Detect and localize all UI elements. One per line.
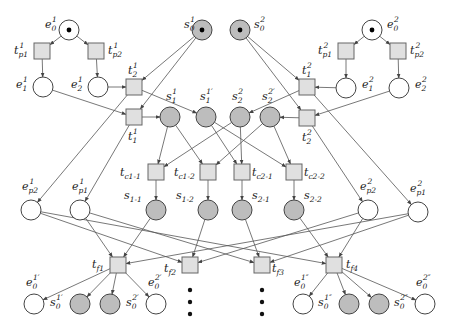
place-s2-1 bbox=[232, 200, 252, 220]
transition-t1_1 bbox=[126, 109, 142, 125]
label-s1_1p: s11′ bbox=[200, 87, 213, 105]
label-e0_2: e02 bbox=[387, 15, 399, 33]
label-t2_1: t21 bbox=[128, 61, 138, 79]
label-t1_1: t11 bbox=[128, 127, 138, 145]
label-tp1_1: tp11 bbox=[14, 41, 28, 59]
label-tf4: tf4 bbox=[346, 258, 358, 273]
transition-tf1 bbox=[110, 257, 126, 273]
place-e0_1p bbox=[24, 294, 44, 314]
place-s1_1 bbox=[160, 107, 180, 127]
arc-e0_2-to-tp2_2 bbox=[380, 36, 390, 44]
arc-t1_1-to-ep1_1 bbox=[85, 125, 129, 201]
label-tc2-2: tc2-2 bbox=[304, 166, 325, 181]
arc-tp2_1-to-e2_1 bbox=[96, 59, 97, 77]
label-e2_1: e21 bbox=[71, 75, 83, 93]
label-tf1: tf1 bbox=[92, 258, 104, 273]
place-s0_2p bbox=[100, 294, 120, 314]
transition-t2_1 bbox=[126, 79, 142, 95]
place-s0_1pp bbox=[339, 294, 359, 314]
place-e0_1 bbox=[59, 20, 79, 40]
ellipsis-dot-icon bbox=[260, 288, 264, 292]
ellipsis-dot-icon bbox=[260, 312, 264, 316]
label-tp2_2: tp22 bbox=[410, 41, 424, 59]
label-ep1_2: ep12 bbox=[410, 179, 426, 197]
arc-e0_1-to-tp1_1 bbox=[50, 36, 61, 45]
ellipsis-dot-icon bbox=[260, 300, 264, 304]
token-icon bbox=[238, 28, 243, 33]
label-tc1-2: tc1-2 bbox=[174, 166, 195, 181]
arc-s1_1-to-tc1-1 bbox=[158, 127, 167, 164]
label-s1-1: s1-1 bbox=[124, 189, 142, 204]
arc-e1_2-to-t1_2 bbox=[315, 87, 336, 88]
place-s2_2p bbox=[260, 107, 280, 127]
place-e1_1 bbox=[33, 77, 53, 97]
place-e0_1pp bbox=[293, 294, 313, 314]
place-e0_2p bbox=[146, 294, 166, 314]
place-ep2_2 bbox=[358, 200, 378, 220]
label-s0_1p: s01′ bbox=[50, 293, 63, 311]
label-tp2_1: tp21 bbox=[108, 41, 122, 59]
petri-net-diagram: s01s02e01e11e21e02e12e22s11s11′s22s22′s1… bbox=[0, 0, 454, 334]
arc-s2_2p-to-tc1-2 bbox=[216, 124, 263, 165]
arc-tf4-to-s0_1pp bbox=[337, 273, 345, 295]
place-e0_2pp bbox=[415, 294, 435, 314]
transition-tf3 bbox=[254, 257, 270, 273]
arc-s0_2-to-t2_2 bbox=[246, 38, 301, 110]
label-tp1_2: tp12 bbox=[318, 41, 332, 59]
label-e0_1pp: e01″ bbox=[294, 273, 309, 291]
token-icon bbox=[67, 28, 72, 33]
place-s2-2 bbox=[284, 200, 304, 220]
arc-tf1-to-s0_1p bbox=[87, 273, 110, 297]
label-t1_2: t12 bbox=[302, 61, 312, 79]
place-s0_2 bbox=[230, 20, 250, 40]
label-tf2: tf2 bbox=[164, 262, 176, 277]
place-e2_1 bbox=[88, 77, 108, 97]
token-icon bbox=[370, 28, 375, 33]
label-e0_1p: e01′ bbox=[26, 273, 40, 291]
transition-tc2-1 bbox=[234, 164, 250, 180]
transition-tp1_2 bbox=[338, 43, 354, 59]
label-e0_2p: e02′ bbox=[148, 273, 162, 291]
label-ep2_2: ep22 bbox=[360, 177, 376, 195]
place-ep2_1 bbox=[21, 200, 41, 220]
transition-tf2 bbox=[182, 257, 198, 273]
place-s0_1 bbox=[192, 20, 212, 40]
transition-tf4 bbox=[326, 257, 342, 273]
label-s2-1: s2-1 bbox=[252, 189, 270, 204]
arc-s1-2-to-tf2 bbox=[193, 220, 205, 257]
arc-tf4-to-s0_2pp bbox=[342, 272, 371, 298]
transition-tc1-2 bbox=[200, 164, 216, 180]
place-ep1_2 bbox=[408, 202, 428, 222]
label-ep2_1: ep21 bbox=[22, 177, 38, 195]
label-t2_2: t22 bbox=[302, 128, 312, 146]
label-tc2-1: tc2-1 bbox=[252, 166, 273, 181]
place-ep1_1 bbox=[70, 200, 90, 220]
labels-layer: s01s02e01e11e21e02e12e22s11s11′s22s22′s1… bbox=[14, 15, 431, 311]
label-e0_1: e01 bbox=[45, 15, 57, 33]
place-s2_2 bbox=[230, 107, 250, 127]
place-s1_1p bbox=[196, 107, 216, 127]
place-e0_2 bbox=[362, 20, 382, 40]
transition-tp1_1 bbox=[34, 43, 50, 59]
arc-ep1_2-to-tf3 bbox=[270, 215, 409, 262]
arc-ep1_2-to-tf1 bbox=[126, 214, 408, 264]
transition-t2_2 bbox=[299, 110, 315, 126]
arc-s2_2-to-tc2-1 bbox=[240, 127, 241, 164]
arc-t2_2-to-s2_2p bbox=[280, 117, 299, 118]
nodes-layer bbox=[21, 20, 435, 316]
label-e1_2: e12 bbox=[362, 75, 374, 93]
arc-e0_2-to-tp1_2 bbox=[354, 36, 364, 44]
label-s0_2pp: s02″ bbox=[394, 293, 408, 311]
place-e1_2 bbox=[336, 78, 356, 98]
label-s0_1pp: s01″ bbox=[318, 293, 332, 311]
transition-tp2_2 bbox=[390, 43, 406, 59]
label-e0_2pp: e02″ bbox=[416, 273, 431, 291]
label-s1_1: s11 bbox=[166, 87, 177, 105]
arc-tp1_1-to-e1_1 bbox=[42, 59, 43, 77]
transition-tp2_1 bbox=[88, 43, 104, 59]
label-e2_2: e22 bbox=[415, 75, 427, 93]
token-icon bbox=[200, 28, 205, 33]
arc-tp2_2-to-e2_2 bbox=[398, 59, 399, 78]
arc-tf1-to-s0_2p bbox=[112, 273, 116, 294]
place-e2_2 bbox=[389, 78, 409, 98]
